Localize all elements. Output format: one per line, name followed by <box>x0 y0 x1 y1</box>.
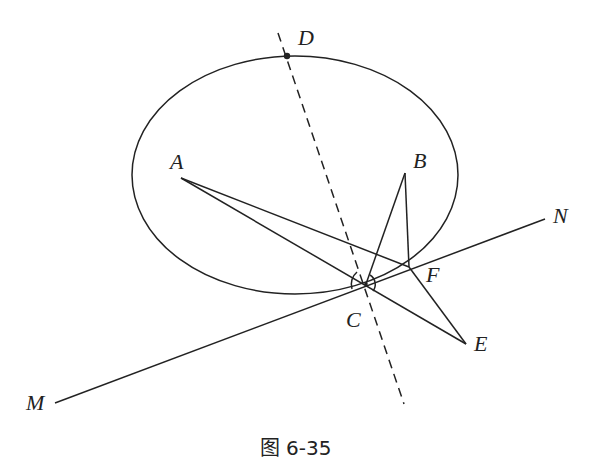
dashed-line-DC <box>278 33 404 404</box>
point-C <box>364 282 368 286</box>
point-D <box>284 53 290 59</box>
label-B: B <box>413 150 426 172</box>
label-F: F <box>426 264 439 286</box>
geometry-figure <box>0 0 591 469</box>
label-D: D <box>298 27 314 49</box>
label-M: M <box>26 392 44 414</box>
label-E: E <box>474 333 487 355</box>
segment-AE <box>181 178 466 344</box>
label-C: C <box>346 309 361 331</box>
segment-AF <box>181 178 409 267</box>
segment-BF <box>405 173 409 267</box>
label-N: N <box>553 205 568 227</box>
figure-caption: 图 6-35 <box>0 432 591 461</box>
label-A: A <box>170 151 183 173</box>
